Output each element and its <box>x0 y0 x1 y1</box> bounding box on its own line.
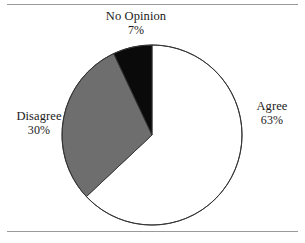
slice-label-disagree-value: 30% <box>6 124 72 137</box>
slice-label-no-opinion-value: 7% <box>88 24 184 37</box>
pie-chart-figure: No Opinion 7% Agree 63% Disagree 30% <box>0 0 305 243</box>
slice-label-disagree-name: Disagree <box>6 110 72 124</box>
slice-label-agree-value: 63% <box>243 114 301 127</box>
slice-label-no-opinion: No Opinion 7% <box>88 10 184 36</box>
slice-label-agree: Agree 63% <box>243 100 301 126</box>
pie-slice-group <box>62 45 242 225</box>
slice-label-no-opinion-name: No Opinion <box>88 10 184 24</box>
slice-label-agree-name: Agree <box>243 100 301 114</box>
slice-label-disagree: Disagree 30% <box>6 110 72 136</box>
